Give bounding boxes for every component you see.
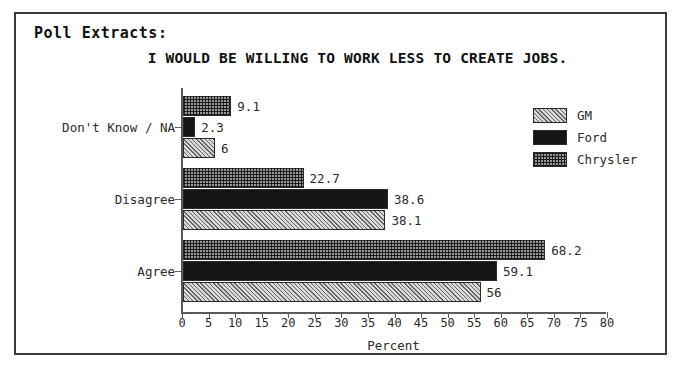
x-axis-tick-label: 80 [600,316,614,330]
legend-label: GM [577,107,592,124]
y-axis-category-tick [175,271,181,272]
legend-swatch-ford [533,130,567,145]
bar-gm-don-t-know-na [183,138,215,158]
bar-value-label: 2.3 [201,120,224,135]
x-axis-tick-label: 45 [414,316,428,330]
bar-chrysler-don-t-know-na [183,96,231,116]
y-axis-category-tick [175,127,181,128]
bar-ford-disagree [183,189,388,209]
x-axis-tick-label: 60 [494,316,508,330]
x-axis-tick-label: 25 [308,316,322,330]
y-axis-category-tick [175,199,181,200]
x-axis-tick-label: 20 [281,316,295,330]
bar-value-label: 59.1 [503,264,533,279]
bar-value-label: 9.1 [237,99,260,114]
x-axis-tick-label: 35 [361,316,375,330]
x-axis-tick-label: 5 [205,316,212,330]
legend-swatch-gm [533,108,567,123]
x-axis-tick-label: 30 [334,316,348,330]
legend-swatch-chrysler [533,152,567,167]
bar-ford-don-t-know-na [183,117,195,137]
x-axis-tick-label: 65 [520,316,534,330]
y-axis-category-label: Don't Know / NA [62,120,175,135]
bar-value-label: 38.6 [394,192,424,207]
bar-chrysler-agree [183,240,545,260]
poll-extracts-heading: Poll Extracts: [34,24,167,42]
x-axis-tick-label: 0 [178,316,185,330]
bar-value-label: 56 [487,285,502,300]
bar-value-label: 68.2 [551,243,581,258]
x-axis-tick-label: 40 [387,316,401,330]
legend-label: Chrysler [577,151,637,168]
x-axis-line [181,312,606,314]
y-axis-category-label: Agree [137,264,175,279]
x-axis-tick-label: 70 [547,316,561,330]
x-axis-tick-label: 10 [228,316,242,330]
bar-value-label: 22.7 [310,171,340,186]
poll-extracts-frame: Poll Extracts: I WOULD BE WILLING TO WOR… [14,12,667,355]
bar-value-label: 6 [221,141,229,156]
x-axis-tick-label: 75 [573,316,587,330]
bar-ford-agree [183,261,497,281]
bar-value-label: 38.1 [391,213,421,228]
x-axis-tick-label: 50 [440,316,454,330]
legend-label: Ford [577,129,607,146]
y-axis-category-label: Disagree [115,192,175,207]
x-axis-tick-label: 55 [467,316,481,330]
x-axis-title: Percent [181,338,606,353]
chart-title: I WOULD BE WILLING TO WORK LESS TO CREAT… [16,50,665,66]
bar-chrysler-disagree [183,168,304,188]
bar-gm-disagree [183,210,385,230]
bar-gm-agree [183,282,481,302]
x-axis-tick-label: 15 [254,316,268,330]
